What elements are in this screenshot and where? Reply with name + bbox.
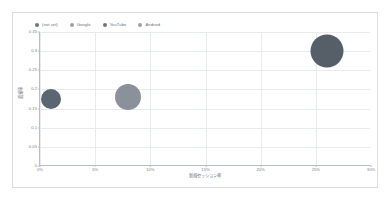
x-axis-tick-mark	[315, 165, 316, 167]
x-axis-tick-label: 0%	[37, 168, 43, 172]
vertical-gridline	[95, 32, 96, 165]
x-axis-tick-label: 15%	[201, 168, 209, 172]
y-axis-tick-mark	[38, 70, 40, 71]
legend-label: Google	[77, 23, 91, 27]
legend-item[interactable]: Google	[70, 23, 91, 27]
y-axis-tick-mark	[38, 51, 40, 52]
y-axis-tick-label: 0.2	[31, 87, 37, 91]
chart-card: (not set)GoogleYouTubeAndroid 00.050.10.…	[12, 12, 378, 188]
y-axis-tick-mark	[38, 127, 40, 128]
y-axis-tick-label: 0.25	[29, 68, 37, 72]
legend-label: (not set)	[42, 23, 58, 27]
legend-marker-icon	[70, 23, 74, 27]
x-axis-tick-label: 20%	[256, 168, 264, 172]
y-axis-title: 直帰率	[19, 87, 23, 99]
y-axis-tick-label: 0.35	[29, 30, 37, 34]
x-axis-tick-mark	[260, 165, 261, 167]
legend-item[interactable]: (not set)	[35, 23, 58, 27]
legend-item[interactable]: YouTube	[103, 23, 127, 27]
y-axis-tick-mark	[38, 108, 40, 109]
vertical-gridline	[261, 32, 262, 165]
legend-marker-icon	[138, 23, 142, 27]
x-axis-title: 新規セッション率	[39, 174, 370, 178]
bubble-data-point[interactable]	[115, 84, 141, 110]
plot-area: 00.050.10.150.20.250.30.35 0%5%10%15%20%…	[39, 32, 370, 166]
y-axis-tick-label: 0.15	[29, 106, 37, 110]
bubble-data-point[interactable]	[310, 35, 343, 68]
x-axis-tick-mark	[40, 165, 41, 167]
y-axis-tick-label: 0.3	[31, 49, 37, 53]
legend-item[interactable]: Android	[138, 23, 160, 27]
x-axis-tick-mark	[371, 165, 372, 167]
y-axis-tick-mark	[38, 146, 40, 147]
legend-marker-icon	[103, 23, 107, 27]
x-axis-tick-label: 25%	[312, 168, 320, 172]
x-axis-tick-label: 10%	[146, 168, 154, 172]
bubble-data-point[interactable]	[41, 89, 61, 109]
x-axis-tick-mark	[205, 165, 206, 167]
x-axis-tick-mark	[150, 165, 151, 167]
x-axis-tick-label: 5%	[92, 168, 98, 172]
y-axis-tick-mark	[38, 32, 40, 33]
vertical-gridline	[206, 32, 207, 165]
vertical-gridline	[150, 32, 151, 165]
x-axis-tick-mark	[95, 165, 96, 167]
y-axis-tick-label: 0.05	[29, 145, 37, 149]
x-axis-tick-label: 30%	[367, 168, 375, 172]
legend-label: YouTube	[110, 23, 127, 27]
y-axis-tick-mark	[38, 89, 40, 90]
legend-label: Android	[145, 23, 160, 27]
chart-legend: (not set)GoogleYouTubeAndroid	[35, 19, 160, 31]
legend-marker-icon	[35, 23, 39, 27]
y-axis-tick-label: 0.1	[31, 126, 37, 130]
